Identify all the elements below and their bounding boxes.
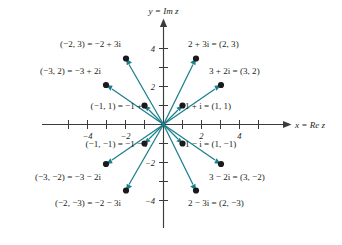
point-labels-group: (−2, 3) = −2 + 3i (−3, 2) = −3 + 2i (−1,… <box>35 39 265 208</box>
y-tick-label-4: 4 <box>151 44 156 54</box>
complex-plane-plot: −4 −2 2 4 4 2 −2 −4 x = Re z y = Im z <box>0 0 342 245</box>
label-minus1-minus-i: (−1, −1) = −1 − i <box>85 139 147 149</box>
label-3-plus-2i: 3 + 2i = (3, 2) <box>209 66 260 76</box>
point-3-2 <box>218 82 224 88</box>
vector-2-minus3i <box>164 125 194 185</box>
y-tick-label-minus4: −4 <box>145 196 156 206</box>
y-tick-label-2: 2 <box>151 82 156 92</box>
vector-minus2-minus3i <box>129 125 164 185</box>
label-minus1-plus-i: (−1, 1) = −1 + i <box>91 101 148 111</box>
label-1-plus-i: 1 + i = (1, 1) <box>185 101 231 111</box>
point-2-minus3 <box>193 187 199 193</box>
label-minus3-minus-2i: (−3, −2) = −3 − 2i <box>35 172 102 182</box>
x-tick-label-4: 4 <box>237 131 242 141</box>
y-axis-label: y = Im z <box>147 6 179 16</box>
y-tick-label-minus2: −2 <box>145 158 156 168</box>
label-minus2-minus-3i: (−2, −3) = −2 − 3i <box>55 198 122 208</box>
y-axis-arrowhead <box>160 19 167 28</box>
point-minus2-minus3 <box>123 187 129 193</box>
x-axis-arrowhead <box>283 121 292 128</box>
vector-minus2-3i <box>129 65 164 125</box>
label-minus3-plus-2i: (−3, 2) = −3 + 2i <box>40 66 101 76</box>
x-axis-label: x = Re z <box>294 120 326 130</box>
axes-group <box>42 19 292 229</box>
point-minus3-2 <box>103 82 109 88</box>
label-2-minus-3i: 2 − 3i = (2, −3) <box>188 198 244 208</box>
point-minus2-3 <box>123 55 129 61</box>
point-2-3 <box>193 55 199 61</box>
label-1-minus-i: 1 − i = (1, −1) <box>185 139 236 149</box>
point-minus3-minus2 <box>103 161 109 167</box>
complex-plane-figure: −4 −2 2 4 4 2 −2 −4 x = Re z y = Im z <box>0 0 342 245</box>
vector-2-3i <box>164 65 194 125</box>
vector-1-plus-i <box>164 110 179 125</box>
label-minus2-plus-3i: (−2, 3) = −2 + 3i <box>60 39 121 49</box>
label-2-plus-3i: 2 + 3i = (2, 3) <box>188 39 239 49</box>
label-3-minus-2i: 3 − 2i = (3, −2) <box>209 172 265 182</box>
point-3-minus2 <box>218 161 224 167</box>
